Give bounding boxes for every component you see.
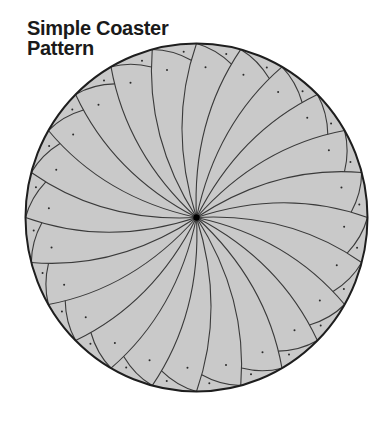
coaster-pattern-diagram	[0, 0, 389, 422]
stitch-dot	[225, 364, 227, 366]
stitch-dot	[63, 284, 65, 286]
stitch-dot	[205, 66, 207, 68]
stitch-dot	[349, 161, 351, 163]
stitch-dot	[166, 69, 168, 71]
stitch-dot	[250, 373, 252, 375]
stitch-dot	[97, 104, 99, 106]
stitch-dot	[48, 145, 50, 147]
stitch-dot	[71, 109, 73, 111]
stitch-dot	[358, 203, 360, 205]
stitch-dot	[33, 230, 35, 232]
stitch-dot	[343, 226, 345, 228]
stitch-dot	[35, 186, 37, 188]
stitch-dot	[51, 247, 53, 249]
stitch-dot	[48, 207, 50, 209]
stitch-dot	[330, 122, 332, 124]
stitch-dot	[149, 359, 151, 361]
stitch-dot	[356, 247, 358, 249]
stitch-dot	[72, 133, 74, 135]
stitch-dot	[125, 366, 127, 368]
stitch-dot	[336, 264, 338, 266]
stitch-dot	[294, 329, 296, 331]
stitch-dot	[306, 117, 308, 119]
stitch-dot	[103, 80, 105, 82]
stitch-dot	[208, 382, 210, 384]
stitch-dot	[266, 67, 268, 69]
stitch-dot	[61, 311, 63, 313]
stitch-dot	[328, 149, 330, 151]
stitch-dot	[340, 186, 342, 188]
stitch-dot	[302, 90, 304, 92]
stitch-dot	[277, 91, 279, 93]
stitch-dot	[225, 53, 227, 55]
stitch-dot	[319, 300, 321, 302]
stitch-dot	[242, 74, 244, 76]
stitch-dot	[89, 343, 91, 345]
stitch-dot	[42, 272, 44, 274]
stitch-dot	[262, 351, 264, 353]
stitch-dot	[114, 342, 116, 344]
stitch-dot	[320, 324, 322, 326]
stitch-dot	[166, 380, 168, 382]
center-dot	[193, 214, 199, 220]
stitch-dot	[85, 316, 87, 318]
stitch-dot	[183, 51, 185, 53]
stitch-dot	[55, 169, 57, 171]
stitch-dot	[186, 367, 188, 369]
stitch-dot	[288, 353, 290, 355]
stitch-dot	[343, 288, 345, 290]
stitch-dot	[130, 82, 132, 84]
stitch-dot	[141, 60, 143, 62]
